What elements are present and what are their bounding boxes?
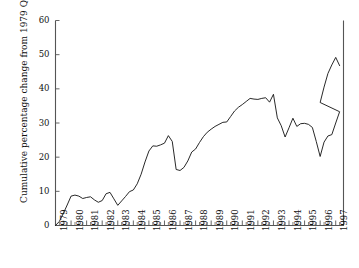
x-tick-label: 1985 xyxy=(152,209,162,231)
y-tick-label: 60 xyxy=(28,15,50,25)
data-series-group xyxy=(56,57,340,225)
x-tick-label: 1988 xyxy=(199,209,209,231)
x-tick-label: 1982 xyxy=(106,209,116,231)
x-tick-label: 1997 xyxy=(339,209,349,231)
chart-plot-area xyxy=(0,0,359,268)
x-tick-label: 1992 xyxy=(261,209,271,231)
axes xyxy=(56,21,344,226)
x-tick-label: 1993 xyxy=(277,209,287,231)
x-tick-label: 1989 xyxy=(215,209,225,231)
y-tick-label: 20 xyxy=(28,152,50,162)
y-tick-label: 0 xyxy=(28,220,50,230)
x-tick-label: 1979 xyxy=(59,209,69,231)
x-tick-label: 1995 xyxy=(308,209,318,231)
x-tick-label: 1980 xyxy=(75,209,85,231)
x-tick-label: 1990 xyxy=(230,209,240,231)
x-tick-label: 1983 xyxy=(121,209,131,231)
y-tick-label: 50 xyxy=(28,49,50,59)
x-tick-label: 1996 xyxy=(324,209,334,231)
y-tick-label: 30 xyxy=(28,118,50,128)
x-tick-label: 1994 xyxy=(293,209,303,231)
y-tick-label: 40 xyxy=(28,83,50,93)
y-tick-label: 10 xyxy=(28,186,50,196)
series-line xyxy=(56,57,340,225)
x-tick-label: 1984 xyxy=(137,209,147,231)
tick-marks xyxy=(56,21,344,226)
x-tick-label: 1986 xyxy=(168,209,178,231)
x-tick-label: 1987 xyxy=(184,209,194,231)
figure: Cumulative percentage change from 1979 Q… xyxy=(0,0,359,268)
x-tick-label: 1991 xyxy=(246,209,256,231)
x-tick-label: 1981 xyxy=(90,209,100,231)
